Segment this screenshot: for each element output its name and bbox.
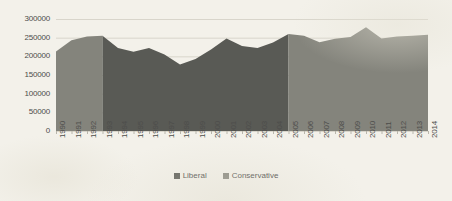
x-axis-tick-label: 2003 [261,121,269,138]
chart-legend: LiberalConservative [0,172,452,180]
x-axis-tick-label: 1997 [168,121,176,138]
x-axis-tick-label: 2001 [230,121,238,138]
area-conservative-late [289,27,429,131]
x-axis-tick-label: 2004 [276,121,284,138]
legend-label: Liberal [183,172,207,180]
x-axis-tick-label: 2011 [385,122,393,138]
x-axis-tick-label: 2014 [431,121,439,138]
plot-area [0,0,452,201]
x-axis-tick-label: 2005 [292,121,300,138]
x-axis-tick-label: 1996 [152,121,160,138]
legend-label: Conservative [232,172,279,180]
x-axis-tick-label: 1992 [90,121,98,138]
x-axis-tick-label: 1990 [59,121,67,138]
x-axis-tick-label: 2009 [354,121,362,138]
legend-item-liberal[interactable]: Liberal [174,172,207,180]
x-axis-tick-label: 1998 [183,121,191,138]
x-axis-tick-label: 1991 [75,121,83,138]
x-axis-tick-label: 2007 [323,121,331,138]
x-axis-tick-label: 2000 [214,121,222,138]
x-axis-tick-label: 1994 [121,121,129,138]
x-axis-tick-label: 1995 [137,121,145,138]
area-conservative-early [56,36,103,131]
area-series-group [56,27,428,131]
x-axis-tick-label: 2008 [338,121,346,138]
x-axis-tick-label: 1993 [106,121,114,138]
x-axis-tick-label: 1999 [199,121,207,138]
x-axis-tick-label: 2010 [369,121,377,138]
area-chart: 300000250000200000150000100000500000 199… [0,0,452,201]
legend-swatch-icon [223,173,229,179]
legend-item-conservative[interactable]: Conservative [223,172,279,180]
x-axis-tick-label: 2002 [245,121,253,138]
x-axis-tick-label: 2006 [307,121,315,138]
x-axis-tick-label: 2013 [416,121,424,138]
legend-swatch-icon [174,173,180,179]
area-liberal [103,34,289,131]
x-axis-tick-label: 2012 [400,121,408,138]
